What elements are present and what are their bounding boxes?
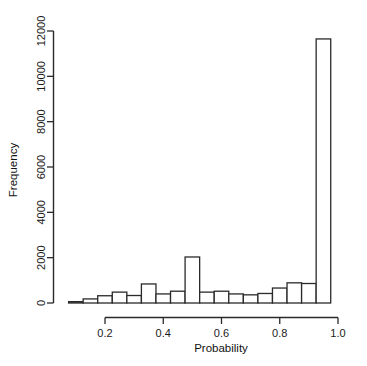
histogram-bar xyxy=(112,292,127,303)
histogram-bar xyxy=(98,296,113,303)
x-axis-tick-labels: 0.20.40.60.81.0 xyxy=(97,327,345,339)
histogram-bar xyxy=(316,39,331,303)
x-axis-ticks xyxy=(105,318,338,325)
histogram-bar xyxy=(156,294,171,303)
histogram-bar xyxy=(272,288,287,303)
histogram-bar xyxy=(83,299,98,303)
histogram-bar xyxy=(141,284,156,303)
histogram-bar xyxy=(302,284,317,303)
histogram-bar xyxy=(69,302,84,303)
x-tick-label: 1.0 xyxy=(330,327,345,339)
histogram-bar xyxy=(258,293,273,303)
histogram-bar xyxy=(214,291,229,303)
histogram-bar xyxy=(171,291,186,303)
y-axis-title: Frequency xyxy=(7,143,19,198)
x-tick-label: 0.6 xyxy=(214,327,229,339)
y-tick-label: 0 xyxy=(35,300,47,306)
x-tick-label: 0.8 xyxy=(272,327,287,339)
histogram-bars xyxy=(69,39,331,303)
y-tick-label: 6000 xyxy=(35,155,47,179)
x-tick-label: 0.4 xyxy=(156,327,171,339)
y-axis-ticks xyxy=(47,31,54,303)
y-axis: 020004000600080001000012000 Frequency xyxy=(7,16,54,306)
y-tick-label: 4000 xyxy=(35,200,47,224)
y-tick-label: 2000 xyxy=(35,245,47,269)
x-axis-title: Probability xyxy=(194,342,248,354)
y-tick-label: 8000 xyxy=(35,109,47,133)
y-tick-label: 12000 xyxy=(35,16,47,47)
histogram-bar xyxy=(287,283,302,303)
histogram-figure: 020004000600080001000012000 Frequency 0.… xyxy=(0,0,367,366)
histogram-bar xyxy=(185,257,200,303)
histogram-plot: 020004000600080001000012000 Frequency 0.… xyxy=(0,0,367,366)
histogram-bar xyxy=(229,294,244,303)
y-tick-label: 10000 xyxy=(35,61,47,92)
x-tick-label: 0.2 xyxy=(97,327,112,339)
histogram-bar xyxy=(127,296,142,303)
histogram-bar xyxy=(243,295,258,303)
y-axis-tick-labels: 020004000600080001000012000 xyxy=(35,16,47,306)
x-axis: 0.20.40.60.81.0 Probability xyxy=(97,318,345,355)
histogram-bar xyxy=(200,292,215,303)
